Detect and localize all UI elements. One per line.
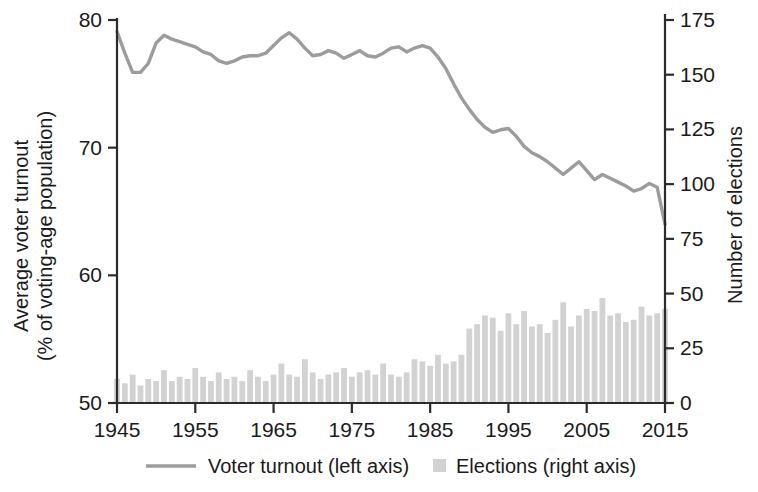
bar-1951 <box>161 370 167 403</box>
bar-2009 <box>615 313 621 403</box>
bar-1955 <box>192 368 198 403</box>
right-tick-label-100: 100 <box>680 172 715 195</box>
right-tick-label-125: 125 <box>680 117 715 140</box>
legend-label-elections: Elections (right axis) <box>456 455 636 477</box>
bar-2010 <box>623 322 629 403</box>
bar-1957 <box>208 381 214 403</box>
bar-1973 <box>333 372 339 403</box>
bar-1978 <box>372 375 378 403</box>
chart-legend: Voter turnout (left axis) Elections (rig… <box>146 455 636 477</box>
legend-label-voter-turnout: Voter turnout (left axis) <box>208 455 409 477</box>
bar-1986 <box>435 355 441 403</box>
bar-2008 <box>607 315 613 403</box>
bar-1962 <box>247 370 253 403</box>
bar-1993 <box>490 318 496 403</box>
left-tick-label-50: 50 <box>79 391 102 414</box>
bar-1976 <box>357 372 363 403</box>
right-tick-label-150: 150 <box>680 63 715 86</box>
bar-1985 <box>427 366 433 403</box>
bar-1958 <box>216 372 222 403</box>
x-tick-label-2015: 2015 <box>642 418 689 441</box>
bottom-axis: 19451955196519751985199520052015 <box>94 403 689 441</box>
elections-bar-series <box>114 298 668 403</box>
bar-1970 <box>310 372 316 403</box>
bar-1956 <box>200 377 206 403</box>
bar-1967 <box>286 375 292 403</box>
bar-1995 <box>506 313 512 403</box>
bar-1950 <box>153 381 159 403</box>
x-tick-label-1975: 1975 <box>328 418 375 441</box>
right-axis: 0255075100125150175 <box>665 8 715 414</box>
right-tick-label-0: 0 <box>680 391 692 414</box>
left-tick-label-70: 70 <box>79 136 102 159</box>
bar-2004 <box>576 315 582 403</box>
bar-1953 <box>177 377 183 403</box>
bar-1969 <box>302 359 308 403</box>
voter-turnout-line <box>117 31 665 224</box>
bar-1968 <box>294 377 300 403</box>
bar-1974 <box>341 368 347 403</box>
bar-1990 <box>466 329 472 403</box>
x-tick-label-1995: 1995 <box>485 418 532 441</box>
bar-1964 <box>263 381 269 403</box>
bar-1999 <box>537 324 543 403</box>
bar-1972 <box>325 375 331 403</box>
bar-1948 <box>138 385 144 403</box>
bar-1982 <box>404 372 410 403</box>
chart-figure: 50607080 0255075100125150175 19451955196… <box>0 0 758 492</box>
y2-axis-title: Number of elections <box>724 126 746 304</box>
bar-1946 <box>122 383 128 403</box>
bar-2002 <box>560 302 566 403</box>
bar-2014 <box>654 313 660 403</box>
bar-2005 <box>584 309 590 403</box>
bar-1994 <box>498 331 504 403</box>
x-tick-label-1955: 1955 <box>172 418 219 441</box>
bar-1961 <box>239 381 245 403</box>
bar-2011 <box>631 320 637 403</box>
bar-1979 <box>380 364 386 403</box>
y-axis-title-line2: (% of voting-age population) <box>34 111 56 361</box>
bar-1966 <box>279 364 285 403</box>
bar-1984 <box>419 361 425 403</box>
bar-1960 <box>232 377 238 403</box>
bar-1977 <box>365 370 371 403</box>
voter-turnout-elections-chart: 50607080 0255075100125150175 19451955196… <box>0 0 758 492</box>
x-tick-label-2005: 2005 <box>563 418 610 441</box>
bar-1949 <box>145 379 151 403</box>
bar-1965 <box>271 375 277 403</box>
right-tick-label-75: 75 <box>680 227 703 250</box>
bar-2006 <box>592 311 598 403</box>
bar-1971 <box>318 379 324 403</box>
bar-1954 <box>185 379 191 403</box>
bar-1980 <box>388 375 394 403</box>
bar-1983 <box>412 359 418 403</box>
bar-2000 <box>545 333 551 403</box>
bar-1989 <box>459 355 465 403</box>
left-tick-label-80: 80 <box>79 8 102 31</box>
bar-2001 <box>553 320 559 403</box>
left-tick-label-60: 60 <box>79 263 102 286</box>
bar-1992 <box>482 315 488 403</box>
bar-1996 <box>513 324 519 403</box>
left-axis: 50607080 <box>79 8 117 414</box>
bar-1998 <box>529 326 535 403</box>
bar-1959 <box>224 379 230 403</box>
bar-2007 <box>599 298 605 403</box>
bar-1975 <box>349 377 355 403</box>
bar-2003 <box>568 326 574 403</box>
legend-bar-swatch <box>433 459 446 472</box>
bar-1991 <box>474 324 480 403</box>
bar-2012 <box>639 307 645 403</box>
bar-1988 <box>451 361 457 403</box>
right-tick-label-25: 25 <box>680 336 703 359</box>
bar-1947 <box>130 375 136 403</box>
bar-1981 <box>396 377 402 403</box>
y-axis-title-line1: Average voter turnout <box>10 140 32 332</box>
bar-2013 <box>646 315 652 403</box>
x-tick-label-1965: 1965 <box>250 418 297 441</box>
bar-1952 <box>169 381 175 403</box>
x-tick-label-1945: 1945 <box>94 418 141 441</box>
right-tick-label-50: 50 <box>680 282 703 305</box>
x-tick-label-1985: 1985 <box>407 418 454 441</box>
bar-1997 <box>521 311 527 403</box>
